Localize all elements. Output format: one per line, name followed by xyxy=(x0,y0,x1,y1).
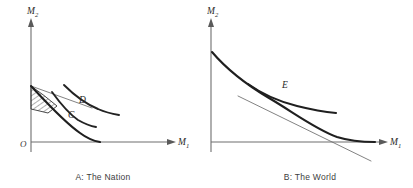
origin-label-a: O xyxy=(20,139,27,149)
transformation-curve-b xyxy=(212,52,375,142)
x-axis-arrow-a xyxy=(167,139,176,145)
price-line-b xyxy=(238,96,371,161)
y-axis-arrow-a xyxy=(28,18,34,27)
equilibrium-label-e: E xyxy=(281,80,288,90)
x-axis-label-sub-a: 1 xyxy=(186,142,189,149)
y-axis-arrow-b xyxy=(208,18,214,27)
panel-a-svg: M 2 M 1 O D C xyxy=(0,0,206,188)
panel-b-svg: E M 2 M 1 O xyxy=(207,0,413,188)
curve-label-c: C xyxy=(68,110,75,120)
x-axis-label-sub-b: 1 xyxy=(398,142,401,149)
figure-root: M 2 M 1 O D C A: The Nation xyxy=(0,0,413,188)
y-axis-label-sub-a: 2 xyxy=(35,11,39,18)
y-axis-label-sub-b: 2 xyxy=(215,11,219,18)
panel-b-the-world: E M 2 M 1 O B: The World xyxy=(207,0,413,188)
curve-label-d: D xyxy=(78,95,86,105)
panel-a-the-nation: M 2 M 1 O D C A: The Nation xyxy=(0,0,206,188)
x-axis-arrow-b xyxy=(379,139,388,145)
panel-b-caption: B: The World xyxy=(207,172,413,182)
indifference-curve-b xyxy=(248,84,336,113)
panel-a-caption: A: The Nation xyxy=(0,172,206,182)
